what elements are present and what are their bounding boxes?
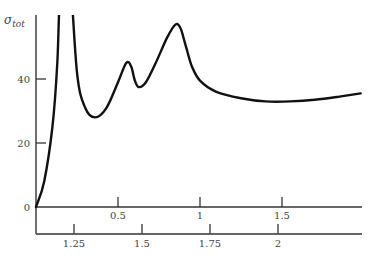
x-lower-tick-label: 1.75 xyxy=(199,238,221,249)
cross-section-chart: σtot 02040 0.511.5 1.251.51.752 xyxy=(0,0,374,262)
y-tick-label: 0 xyxy=(24,202,30,213)
x-upper-tick-label: 1 xyxy=(197,210,203,221)
y-tick-label: 20 xyxy=(17,138,30,149)
cross-section-curve xyxy=(36,0,361,207)
x-ticks-upper: 0.511.5 xyxy=(110,197,290,221)
y-tick-label: 40 xyxy=(17,74,30,85)
x-upper-tick-label: 1.5 xyxy=(274,210,290,221)
x-upper-tick-label: 0.5 xyxy=(110,210,126,221)
y-axis-label: σtot xyxy=(4,13,25,29)
x-lower-tick-label: 1.25 xyxy=(63,238,85,249)
x-lower-tick-label: 2 xyxy=(275,238,281,249)
x-ticks-lower: 1.251.51.752 xyxy=(63,224,281,249)
x-lower-tick-label: 1.5 xyxy=(134,238,150,249)
